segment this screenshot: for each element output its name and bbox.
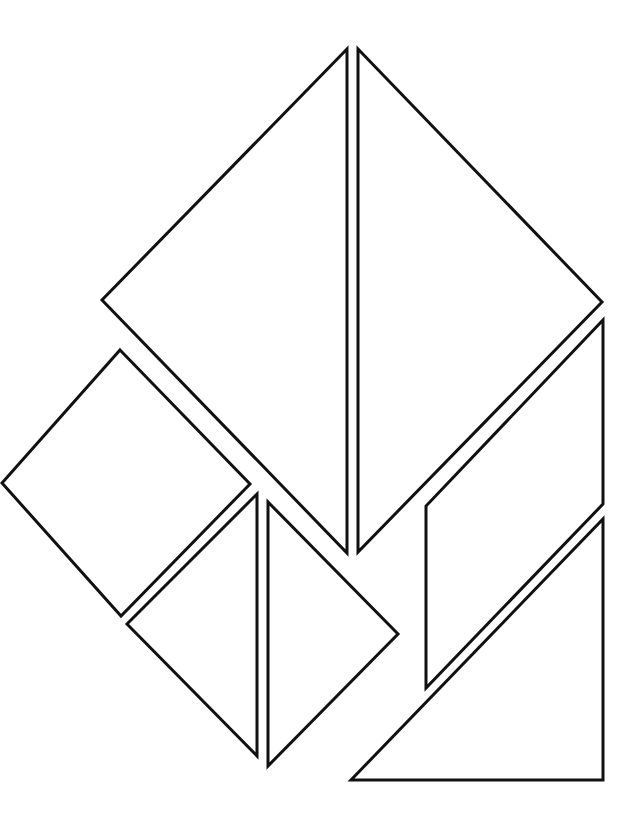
tangram-canvas	[0, 0, 640, 823]
small-triangle-right-piece	[268, 502, 398, 766]
tangram-diagram	[0, 0, 640, 823]
